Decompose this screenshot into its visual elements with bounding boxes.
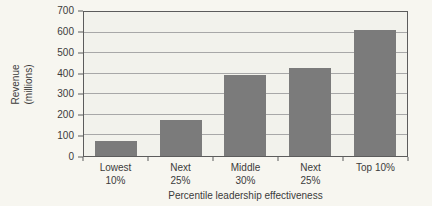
y-tick-label: 600: [57, 27, 74, 37]
x-tick-label: Next 25%: [148, 161, 213, 187]
bar-chart-figure: Revenue (millions) 010020030040050060070…: [0, 0, 432, 206]
bar-cell: [342, 12, 407, 156]
bar-3: [224, 75, 266, 156]
y-tick-label: 500: [57, 48, 74, 58]
y-tick-label: 700: [57, 6, 74, 16]
bar-5: [354, 30, 396, 157]
y-tick-label: 100: [57, 131, 74, 141]
bar-cell: [278, 12, 343, 156]
bars-row: [84, 12, 407, 156]
x-tick-label: Next 25%: [278, 161, 343, 187]
plot-area: [83, 11, 408, 157]
bar-2: [160, 120, 202, 156]
bar-cell: [149, 12, 214, 156]
x-tick-label: Lowest 10%: [83, 161, 148, 187]
y-tick-label: 0: [68, 152, 74, 162]
y-tick-label: 400: [57, 69, 74, 79]
y-axis-ticks: 0100200300400500600700: [0, 11, 74, 157]
bar-cell: [84, 12, 149, 156]
x-axis-labels: Lowest 10%Next 25%Middle 30%Next 25%Top …: [83, 161, 408, 187]
x-tick-label: Top 10%: [343, 161, 408, 187]
y-tick-label: 200: [57, 110, 74, 120]
x-tick-label: Middle 30%: [213, 161, 278, 187]
bar-1: [95, 141, 137, 156]
bar-4: [289, 68, 331, 156]
bar-cell: [213, 12, 278, 156]
x-axis-title: Percentile leadership effectiveness: [83, 190, 408, 201]
y-tick-label: 300: [57, 89, 74, 99]
